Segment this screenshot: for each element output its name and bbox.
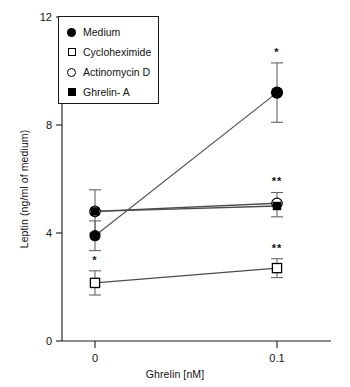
y-tick-label-12: 12 <box>18 11 52 23</box>
x-tick-label-0: 0 <box>75 352 115 364</box>
x-tick-marks <box>95 341 277 348</box>
filled-circle-icon <box>65 26 78 39</box>
marker-ghrelin-a-0 <box>91 207 99 215</box>
significance-cycloheximide-0-1: ** <box>272 243 283 254</box>
y-tick-label-0: 0 <box>18 335 52 347</box>
x-axis-title: Ghrelin [nM] <box>0 368 350 380</box>
chart-figure: 12 8 4 0 0 0.1 Ghrelin [nM] Leptin (ng/m… <box>0 0 350 387</box>
marker-cycloheximide-0-1 <box>272 264 281 273</box>
legend-label-cycloheximide: Cycloheximide <box>83 47 151 58</box>
open-circle-icon <box>65 66 78 79</box>
legend-label-ghrelin-a: Ghrelin- A <box>83 87 130 98</box>
x-tick-label-0-1: 0.1 <box>257 352 297 364</box>
series-line-medium <box>95 93 277 236</box>
marker-cycloheximide-0 <box>90 278 99 287</box>
significance-ghrelin-a-0-1: ** <box>272 176 283 187</box>
open-square-icon <box>65 46 78 59</box>
marker-ghrelin-a-0-1 <box>273 202 281 210</box>
filled-square-icon <box>65 86 78 99</box>
legend-label-actinomycin-d: Actinomycin D <box>83 67 150 78</box>
significance-cycloheximide-0: * <box>92 255 97 266</box>
legend-item-cycloheximide: Cycloheximide <box>65 42 158 62</box>
legend-item-medium: Medium <box>65 22 158 42</box>
series-line-cycloheximide <box>95 268 277 283</box>
chart-legend: Medium Cycloheximide Actinomycin D Ghrel… <box>58 16 159 104</box>
significance-medium-0-1: * <box>274 47 279 58</box>
legend-item-ghrelin-a: Ghrelin- A <box>65 82 158 102</box>
chart-plot-area <box>0 0 350 387</box>
y-axis-title: Leptin (ng/ml of medium) <box>18 99 30 279</box>
legend-item-actinomycin-d: Actinomycin D <box>65 62 158 82</box>
marker-medium-0-1 <box>271 87 283 99</box>
legend-label-medium: Medium <box>83 27 120 38</box>
marker-medium-0 <box>89 230 100 241</box>
